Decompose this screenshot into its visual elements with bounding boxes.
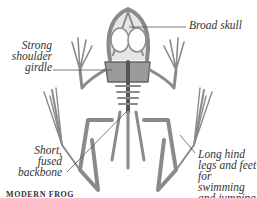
label-line: backbone — [10, 167, 62, 178]
label-shoulder-girdle: Strong shoulder girdle — [6, 40, 52, 73]
label-line: girdle — [6, 62, 52, 73]
label-backbone: Short, fused backbone — [10, 145, 62, 178]
diagram-caption: MODERN FROG — [6, 190, 74, 198]
label-hind-legs: Long hind legs and feet for swimming and… — [198, 149, 257, 198]
label-line: for swimming — [198, 171, 257, 193]
label-broad-skull: Broad skull — [189, 20, 242, 31]
label-line: and jumping — [198, 193, 257, 198]
frog-skeleton-diagram: Broad skull Strong shoulder girdle Short… — [0, 0, 257, 198]
